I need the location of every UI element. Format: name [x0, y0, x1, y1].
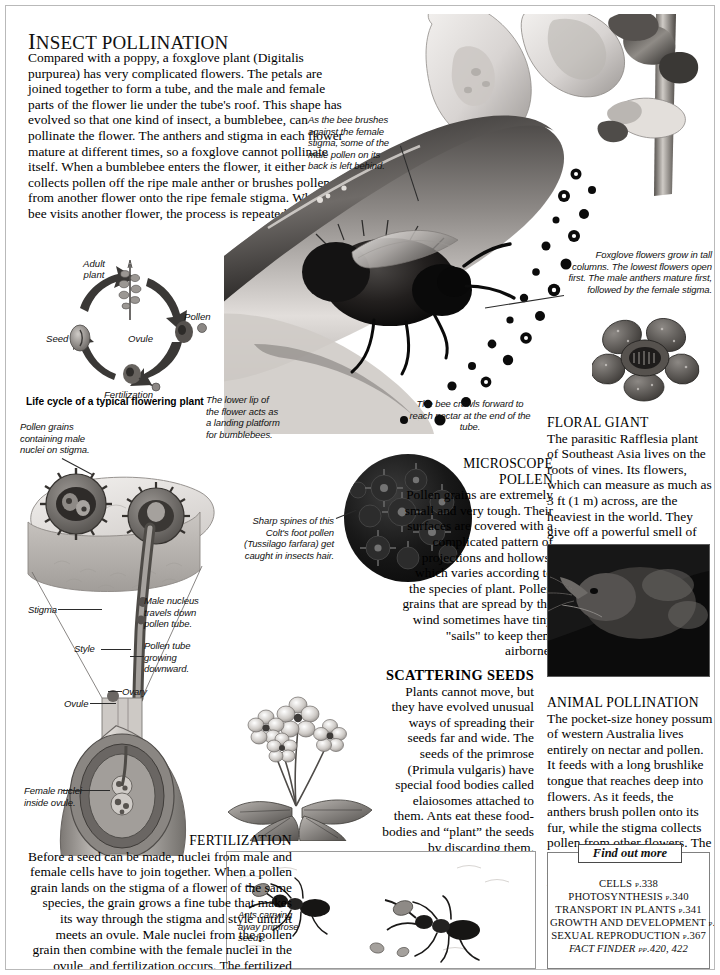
caption-stigma: Stigma — [28, 604, 57, 616]
fertilization-body: Before a seed can be made, nuclei from m… — [28, 849, 292, 970]
lifecycle-label-ovule: Ovule — [128, 333, 153, 344]
honey-possum-photo — [547, 544, 710, 677]
fertilization-heading: FERTILIZATION — [28, 833, 292, 849]
find-out-more-list: CELLS p.338 PHOTOSYNTHESIS p.340 TRANSPO… — [548, 853, 709, 956]
leader-line-style — [101, 649, 131, 650]
find-out-more-item-photosynthesis[interactable]: PHOTOSYNTHESIS p.340 — [550, 890, 707, 903]
lifecycle-label-pollen: Pollen — [184, 311, 211, 322]
find-out-more-item-fact-finder[interactable]: FACT FINDER pp.420, 422 — [550, 942, 707, 955]
life-cycle-diagram — [36, 256, 226, 396]
floral-giant-heading: FLORAL GIANT — [547, 415, 712, 431]
caption-ovule: Ovule — [64, 698, 88, 710]
primrose-illustration — [222, 656, 382, 841]
caption-female-nuclei: Female nuclei inside ovule. — [24, 785, 84, 808]
find-out-more-box: Find out more CELLS p.338 PHOTOSYNTHESIS… — [547, 852, 710, 969]
lifecycle-label-adult-plant: Adult plant — [74, 258, 114, 280]
find-out-more-item-growth-and-development[interactable]: GROWTH AND DEVELOPMENT p.362 — [550, 916, 707, 929]
caption-coltsfoot-pollen: Sharp spines of this Colt's foot pollen … — [238, 515, 334, 561]
microscope-pollen-heading-line2: POLLEN — [398, 472, 553, 488]
lifecycle-title: Life cycle of a typical flowering plant — [26, 396, 204, 407]
caption-pollen-tube: Pollen tube growing downward. — [144, 640, 220, 675]
leader-line-ovule — [90, 703, 116, 704]
caption-foxglove-columns: Foxglove flowers grow in tall columns. T… — [566, 249, 712, 295]
microscope-pollen-body: Pollen grains are extremely small and ve… — [402, 487, 553, 658]
section-microscope-pollen: MICROSCOPE POLLEN Pollen grains are extr… — [398, 456, 553, 659]
caption-lower-lip: The lower lip of the flower acts as a la… — [206, 394, 284, 440]
caption-pollen-grains-stigma: Pollen grains containing male nuclei on … — [20, 421, 110, 456]
caption-bee-crawls: The bee crawls forward to reach nectar a… — [406, 398, 534, 433]
encyclopedia-page: INSECT POLLINATION Compared with a poppy… — [5, 5, 715, 970]
find-out-more-item-transport-in-plants[interactable]: TRANSPORT IN PLANTS p.341 — [550, 903, 707, 916]
microscope-pollen-heading-line1: MICROSCOPE — [398, 456, 553, 472]
scattering-seeds-body: Plants cannot move, but they have evolve… — [382, 684, 534, 855]
leader-line-pollen-tube — [130, 656, 144, 657]
find-out-more-item-cells[interactable]: CELLS p.338 — [550, 877, 707, 890]
find-out-more-title: Find out more — [578, 844, 682, 863]
scattering-seeds-heading: SCATTERING SEEDS — [382, 668, 534, 684]
section-scattering-seeds: SCATTERING SEEDS Plants cannot move, but… — [382, 668, 534, 855]
rafflesia-illustration — [592, 311, 700, 403]
leader-line-ovary — [108, 691, 122, 692]
animal-pollination-heading: ANIMAL POLLINATION — [547, 695, 714, 711]
caption-style: Style — [74, 643, 95, 655]
section-fertilization: FERTILIZATION Before a seed can be made,… — [28, 833, 292, 970]
caption-bee-brushes: As the bee brushes against the female st… — [308, 114, 400, 172]
lifecycle-label-seed: Seed — [46, 333, 68, 344]
caption-ovary: Ovary — [122, 686, 147, 698]
find-out-more-item-sexual-reproduction[interactable]: SEXUAL REPRODUCTION p.367 — [550, 929, 707, 942]
leader-line-female-nuclei — [62, 790, 110, 791]
leader-line-stigma — [58, 609, 102, 610]
caption-male-nucleus: Male nucleus travels down pollen tube. — [144, 595, 218, 630]
